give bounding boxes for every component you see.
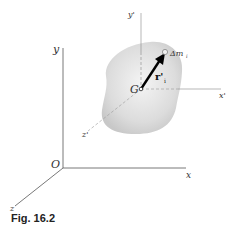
vector-subscript: i (164, 77, 166, 84)
z-axis (15, 168, 63, 206)
center-label: G (130, 83, 139, 96)
figure-caption: Fig. 16.2 (11, 212, 55, 224)
rigid-body-diagram: y O x z y' x' z' G r' i Δm i (0, 0, 233, 232)
y-prime-label: y' (127, 10, 135, 19)
x-prime-label: x' (219, 91, 226, 100)
mass-element-point (162, 49, 167, 54)
mass-subscript: i (186, 53, 188, 59)
center-of-mass-point (139, 87, 143, 91)
x-label: x (186, 170, 191, 180)
mass-label: Δm (169, 49, 184, 58)
z-prime-label: z' (81, 130, 88, 139)
vector-label: r' (155, 71, 163, 82)
y-label: y (52, 43, 60, 56)
origin-label: O (51, 158, 60, 171)
